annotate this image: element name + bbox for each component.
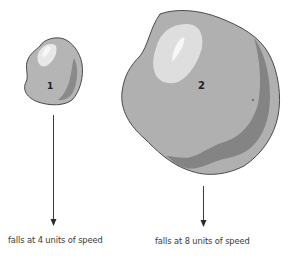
arrow-object-2 <box>201 186 207 227</box>
object-2-label: 2 <box>198 80 205 91</box>
object-2-caption: falls at 8 units of speed <box>155 236 250 246</box>
falling-objects-diagram: 1 2 falls at 4 units of speed falls at 8… <box>0 0 296 268</box>
object-1-label: 1 <box>47 81 53 91</box>
object-1-caption: falls at 4 units of speed <box>8 235 103 245</box>
object-2-rock: 2 <box>122 11 280 175</box>
diagram-canvas: 1 2 <box>0 0 296 268</box>
object-1-rock: 1 <box>25 38 83 105</box>
arrow-object-1 <box>51 115 57 226</box>
